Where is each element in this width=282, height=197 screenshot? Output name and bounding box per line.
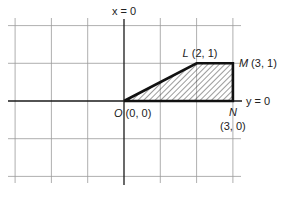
vertical-axis-label: x = 0 bbox=[112, 5, 136, 17]
vertex-coords: (3, 1) bbox=[248, 57, 277, 69]
vertex-coords: (0, 0) bbox=[123, 107, 152, 119]
hatched-region bbox=[124, 63, 233, 101]
vertex-label-M: M (3, 1) bbox=[239, 57, 277, 69]
vertex-label-O: O (0, 0) bbox=[114, 107, 151, 119]
vertex-coords: (2, 1) bbox=[189, 47, 218, 59]
region bbox=[124, 63, 233, 101]
vertex-coords: (3, 0) bbox=[220, 120, 246, 132]
coordinate-diagram: x = 0 y = 0 O (0, 0)L (2, 1)M (3, 1)N(3,… bbox=[0, 0, 282, 197]
vertex-name: N bbox=[229, 106, 237, 118]
horizontal-axis-label: y = 0 bbox=[246, 95, 270, 107]
vertex-label-L: L (2, 1) bbox=[183, 47, 218, 59]
